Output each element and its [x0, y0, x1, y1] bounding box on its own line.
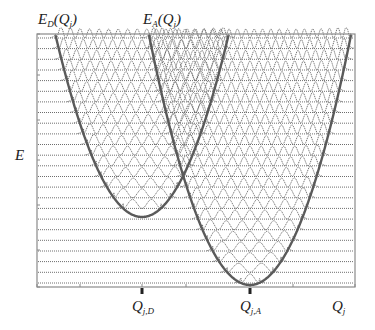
acceptor-potential-curve — [149, 35, 351, 285]
donor-min-tick — [141, 288, 144, 294]
donor-curve-label: ED(Qj) — [38, 11, 77, 29]
y-axis-label: E — [15, 147, 24, 163]
donor-min-label: Qj,D — [132, 298, 154, 316]
x-axis-label: Qj — [332, 298, 345, 316]
acceptor-min-label: Qj,A — [240, 298, 261, 316]
acceptor-curve-label: EA(Qj) — [143, 11, 181, 29]
energy-diagram — [0, 0, 375, 330]
vibrational-level-baselines — [38, 38, 354, 283]
acceptor-min-tick — [249, 288, 252, 294]
